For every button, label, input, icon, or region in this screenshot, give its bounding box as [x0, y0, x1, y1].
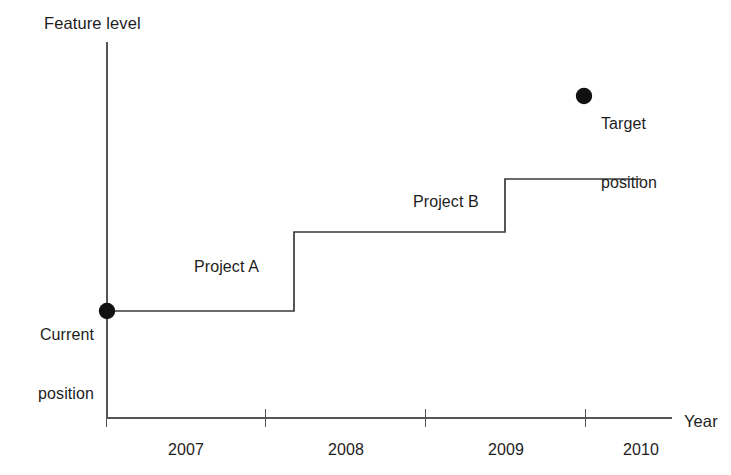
chart-canvas: Feature level Year 2007 2008 2009 2010 C…	[0, 0, 731, 475]
current-position-label-line2: position	[2, 384, 94, 404]
step-chart-plot	[0, 0, 731, 475]
y-axis-title: Feature level	[44, 13, 141, 33]
x-axis-title: Year	[684, 411, 718, 431]
current-position-label: Current position	[2, 286, 94, 442]
x-tick-label-2010: 2010	[601, 440, 681, 460]
current-position-label-line1: Current	[2, 325, 94, 345]
target-position-label-line1: Target	[601, 114, 711, 134]
target-position-label-line2: position	[601, 173, 711, 193]
project-a-label: Project A	[194, 257, 259, 277]
step-line-series	[107, 179, 641, 311]
current-position-marker	[99, 303, 115, 319]
x-tick-label-2008: 2008	[306, 440, 386, 460]
target-position-marker	[576, 88, 592, 104]
x-tick-label-2009: 2009	[466, 440, 546, 460]
x-tick-label-2007: 2007	[146, 440, 226, 460]
project-b-label: Project B	[413, 192, 479, 212]
target-position-label: Target position	[601, 75, 711, 231]
